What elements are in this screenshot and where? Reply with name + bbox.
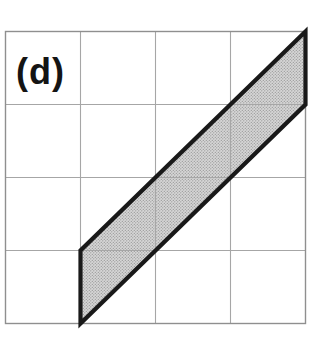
figure-panel: (d) xyxy=(0,0,314,343)
figure-label: (d) xyxy=(16,51,65,92)
diagram-svg: (d) xyxy=(0,0,314,343)
screenshot-root: { "figure": { "label": "(d)", "grid": { … xyxy=(0,0,314,343)
